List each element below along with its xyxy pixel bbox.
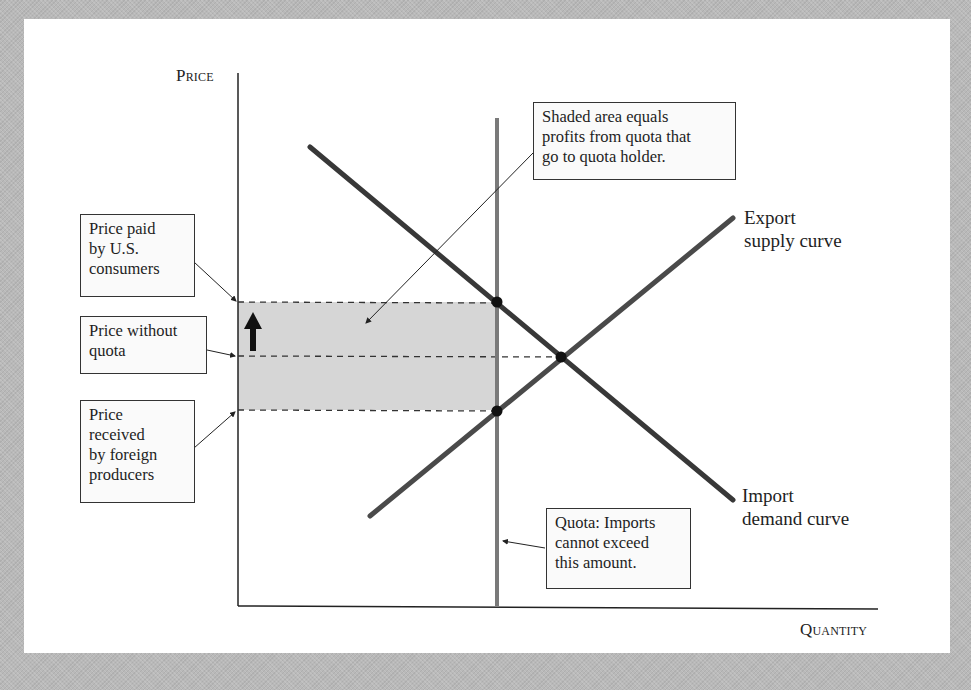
callout-price-received: Price received by foreign producers — [80, 400, 195, 503]
callout-price-without-quota: Price without quota — [80, 316, 207, 374]
callout-quota: Quota: Imports cannot exceed this amount… — [546, 508, 691, 589]
leader-received — [194, 412, 235, 448]
y-axis-title: Price — [176, 66, 214, 86]
leader-quota — [503, 541, 545, 548]
point-quota-demand — [492, 297, 503, 308]
price-received-line — [238, 410, 497, 411]
leader-paid — [194, 262, 236, 301]
leader-without — [207, 350, 235, 356]
point-quota-supply — [492, 406, 503, 417]
callout-shaded-area: Shaded area equals profits from quota th… — [533, 102, 736, 180]
label-export-supply: Export supply curve — [744, 206, 842, 252]
x-axis — [238, 606, 878, 609]
callout-price-paid: Price paid by U.S. consumers — [80, 214, 195, 297]
x-axis-title: Quantity — [800, 620, 867, 640]
label-import-demand: Import demand curve — [742, 484, 849, 530]
point-equilibrium — [556, 352, 567, 363]
leader-shaded — [366, 153, 533, 323]
